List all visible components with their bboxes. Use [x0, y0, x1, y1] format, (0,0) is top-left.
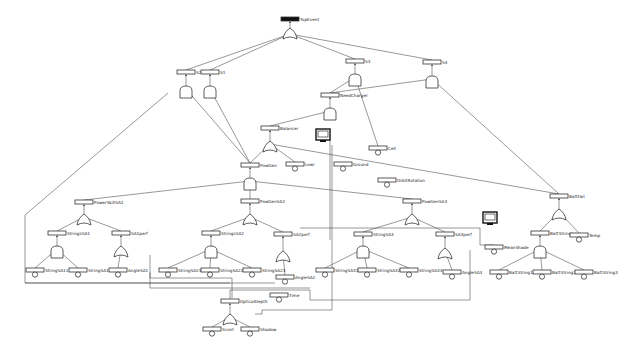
edge-arrow — [363, 217, 412, 232]
basic-event-temp[interactable]: Temp — [570, 233, 601, 243]
gate-node-stringsa3[interactable]: StringSA3 — [354, 232, 394, 259]
node-label: Cell — [388, 146, 396, 151]
basic-event-stringsa33[interactable]: StringSA33 — [400, 268, 443, 278]
basic-event-circle-icon — [449, 274, 454, 279]
basic-event-anglesa3[interactable]: AngleSA3 — [443, 270, 483, 280]
node-label: StringSA31 — [335, 268, 359, 273]
gate-node-sa1perf[interactable]: SA1perf — [112, 231, 148, 258]
node-label: PowerSkillSA1 — [94, 200, 124, 205]
and-gate-icon — [357, 246, 369, 258]
basic-event-cell[interactable]: Cell — [369, 146, 396, 156]
basic-event-circle-icon — [207, 272, 212, 277]
node-label: PowGen — [260, 163, 277, 168]
node-label: StringSA11 — [45, 268, 69, 273]
or-gate-icon — [114, 246, 128, 257]
monitor-icon[interactable] — [316, 129, 330, 142]
gate-node-sa2perf[interactable]: SA2perf — [274, 232, 310, 263]
basic-event-stringsa22[interactable]: StringSA22 — [201, 268, 244, 278]
and-gate-icon — [324, 108, 336, 120]
basic-event-circle-icon — [364, 272, 369, 277]
basic-event-scont[interactable]: Scont — [203, 327, 234, 337]
basic-event-battstring2[interactable]: BattString2 — [533, 270, 576, 280]
or-gate-icon — [405, 214, 419, 225]
edge-arrow — [355, 77, 378, 146]
basic-event-circle-icon — [375, 150, 380, 155]
node-label: BattString3 — [594, 270, 618, 275]
and-gate-icon — [204, 86, 216, 98]
monitor-icon[interactable] — [483, 212, 497, 225]
basic-event-circle-icon — [32, 272, 37, 277]
gate-node-stringssa2[interactable]: StringsSA2 — [202, 231, 244, 259]
basic-event-circle-icon — [576, 237, 581, 242]
node-label: StringSA3 — [373, 232, 394, 237]
or-gate-icon — [243, 214, 257, 225]
edge-arrow — [270, 144, 559, 194]
node-label: PowGenSA3 — [422, 199, 447, 204]
basic-event-circle-icon — [322, 272, 327, 277]
node-label: BattFail — [569, 194, 585, 199]
node-label: SA3perf — [455, 232, 472, 237]
gate-node-sa3perf[interactable]: SA3perf — [436, 232, 472, 260]
node-label: TopEvent — [299, 17, 319, 22]
basic-event-circle-icon — [491, 249, 496, 254]
edge-arrow — [168, 249, 211, 268]
basic-event-stringsa11[interactable]: StringSA11 — [26, 268, 69, 278]
basic-event-stringsa12[interactable]: StringSA12 — [69, 268, 112, 278]
edge-arrow — [290, 34, 432, 60]
and-gate-icon — [534, 246, 546, 258]
basic-event-time[interactable]: Time — [270, 293, 300, 303]
node-label: OpticalDepth — [240, 299, 268, 304]
gate-node-battstrings[interactable]: BattStrings — [531, 231, 573, 259]
basic-event-shadow[interactable]: Shadow — [241, 327, 277, 337]
gate-node-s1[interactable]: S1 — [201, 70, 226, 99]
node-label: MeanShade — [504, 245, 529, 250]
and-gate-icon — [51, 246, 63, 258]
node-label: NeedCharger — [340, 93, 368, 98]
basic-event-lowl[interactable]: Lowl — [286, 162, 314, 172]
basic-event-stringsa31[interactable]: StringSA31 — [316, 268, 359, 278]
basic-event-stringsa32[interactable]: StringSA32 — [358, 268, 401, 278]
gate-node-s2[interactable]: S2 — [177, 70, 202, 99]
node-label: SA1perf — [131, 231, 148, 236]
basic-event-circle-icon — [276, 297, 281, 302]
basic-event-battstring3[interactable]: BattString3 — [575, 270, 618, 280]
node-label: Balancer — [280, 126, 299, 131]
node-label: StringSA32 — [377, 268, 401, 273]
basic-event-circle-icon — [406, 272, 411, 277]
node-label: StringSA33 — [419, 268, 443, 273]
basic-event-stringsa21[interactable]: StringSA21 — [159, 268, 202, 278]
gate-node-stringssa1[interactable]: StringsSA1 — [48, 231, 90, 259]
basic-event-battstring1[interactable]: BattString1 — [490, 270, 533, 280]
gate-node-powgensa3[interactable]: PowGenSA3 — [403, 199, 447, 226]
node-label: StringSA23 — [262, 268, 286, 273]
node-label: Lowl — [305, 162, 314, 167]
fault-tree-diagram: TopEventS2S1S3S4NeedChargerBalancerPowGe… — [0, 0, 626, 351]
or-gate-icon — [438, 248, 452, 259]
gate-node-powgen[interactable]: PowGen — [241, 163, 277, 191]
edge-arrow — [290, 34, 355, 59]
basic-event-orbitrotation[interactable]: OrbitRotation — [378, 178, 425, 188]
edge-arrow — [270, 111, 330, 126]
edges-layer — [25, 22, 584, 328]
fault-tree-canvas: TopEventS2S1S3S4NeedChargerBalancerPowGe… — [0, 0, 626, 351]
gate-node-s3[interactable]: S3 — [346, 59, 371, 87]
node-label: S3 — [365, 59, 371, 64]
basic-event-meanshade[interactable]: MeanShade — [485, 245, 529, 255]
basic-event-anglesa1[interactable]: AngleSA1 — [109, 268, 149, 278]
node-label: SA2perf — [293, 232, 310, 237]
edge-arrow — [363, 249, 409, 268]
or-gate-icon — [77, 214, 91, 225]
gate-node-opticaldepth[interactable]: OpticalDepth — [221, 299, 268, 326]
basic-event-circle-icon — [340, 166, 345, 171]
basic-event-anglesa2[interactable]: AngleSA2 — [276, 275, 316, 285]
gate-node-powgensa2[interactable]: PowGenSA2 — [241, 199, 285, 226]
node-label: StringsSA2 — [221, 231, 244, 236]
gate-node-battfail[interactable]: BattFail — [550, 194, 585, 221]
basic-event-ground[interactable]: Ground — [334, 162, 369, 172]
gate-node-s4[interactable]: S4 — [423, 60, 448, 89]
gate-node-needcharger[interactable]: NeedCharger — [321, 93, 368, 121]
node-label: S1 — [220, 70, 226, 75]
basic-event-circle-icon — [292, 166, 297, 171]
gate-node-powerskillsa1[interactable]: PowerSkillSA1 — [75, 200, 124, 226]
node-label: AngleSA1 — [128, 268, 149, 273]
